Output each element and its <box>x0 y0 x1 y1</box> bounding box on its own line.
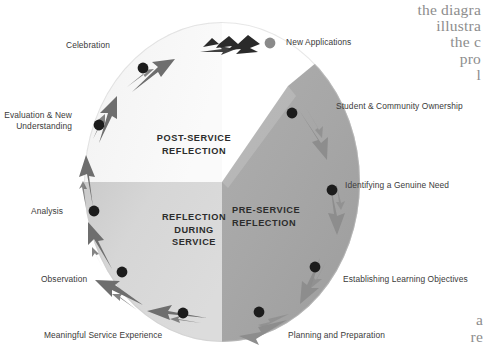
dot-meaningful-service-experience <box>178 308 189 319</box>
dot-planning-and-preparation <box>254 307 265 318</box>
dot-establishing-learning-objectives <box>310 262 321 273</box>
stage-label-celebration: Celebration <box>66 40 110 51</box>
dot-analysis <box>89 206 100 217</box>
dot-student-community-ownership <box>287 108 298 119</box>
page-body-text-top: the diagra illustra the c pro l <box>417 2 481 83</box>
stage-label-evaluation-new-understanding: Evaluation & New Understanding <box>0 110 72 131</box>
stage-label-establishing-learning-objectives: Establishing Learning Objectives <box>343 274 468 285</box>
dot-identifying-genuine-need <box>327 185 338 196</box>
zone-reflection-during-service-shape <box>60 182 222 352</box>
zone-label-pre-service: PRE-SERVICE REFLECTION <box>232 204 326 229</box>
zone-label-reflection-during-service: REFLECTION DURING SERVICE <box>148 211 240 249</box>
dot-evaluation-new-understanding <box>94 120 105 131</box>
outcome-label-new-applications: New Applications <box>286 37 351 48</box>
dot-celebration <box>138 63 149 74</box>
stage-label-meaningful-service-experience: Meaningful Service Experience <box>44 330 162 341</box>
dot-new-applications <box>265 38 276 49</box>
dot-observation <box>117 267 128 278</box>
stage-label-student-community-ownership: Student & Community Ownership <box>336 101 463 112</box>
stage-label-observation: Observation <box>41 274 87 285</box>
zone-label-post-service: POST-SERVICE REFLECTION <box>148 132 240 157</box>
page-body-text-bottom: a re <box>471 311 483 345</box>
zone-shapes <box>60 10 380 352</box>
stage-label-identifying-genuine-need: Identifying a Genuine Need <box>345 180 449 191</box>
stage-label-planning-and-preparation: Planning and Preparation <box>288 330 385 341</box>
stage-label-analysis: Analysis <box>31 206 63 217</box>
